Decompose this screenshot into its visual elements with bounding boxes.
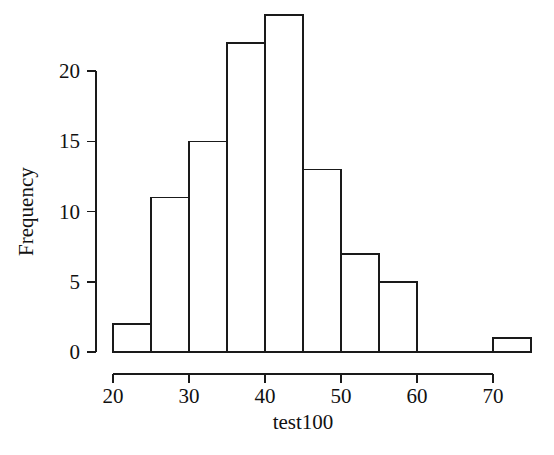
histogram-bar xyxy=(227,43,265,352)
y-axis-title: Frequency xyxy=(14,167,38,256)
y-tick-label: 5 xyxy=(70,270,81,294)
x-tick-label: 70 xyxy=(483,384,504,408)
y-tick-label: 20 xyxy=(59,59,80,83)
x-tick-label: 50 xyxy=(331,384,352,408)
bars-group xyxy=(113,15,531,352)
x-tick-label: 20 xyxy=(103,384,124,408)
x-tick-label: 60 xyxy=(407,384,428,408)
histogram-chart: 05101520 203040506070 test100Frequency xyxy=(0,0,554,455)
histogram-bar xyxy=(151,198,189,352)
histogram-bar xyxy=(341,254,379,352)
histogram-bar xyxy=(189,141,227,352)
x-axis-title: test100 xyxy=(273,410,334,434)
histogram-bar xyxy=(379,282,417,352)
y-tick-label: 0 xyxy=(70,340,81,364)
y-tick-label: 15 xyxy=(59,129,80,153)
histogram-bar xyxy=(113,324,151,352)
y-axis: 05101520 xyxy=(59,59,96,364)
plot-area: 05101520 203040506070 test100Frequency xyxy=(0,0,554,455)
histogram-bar xyxy=(265,15,303,352)
x-axis: 203040506070 xyxy=(103,374,504,408)
x-tick-label: 30 xyxy=(179,384,200,408)
x-tick-label: 40 xyxy=(255,384,276,408)
histogram-bar xyxy=(493,338,531,352)
y-tick-label: 10 xyxy=(59,200,80,224)
histogram-bar xyxy=(303,169,341,352)
